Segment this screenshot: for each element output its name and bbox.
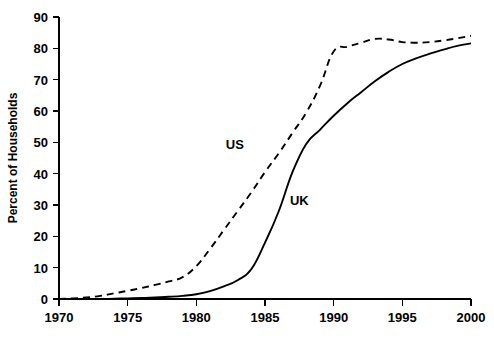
y-tick-label: 70 — [34, 73, 48, 88]
y-tick-label: 10 — [34, 261, 48, 276]
x-tick-label: 2000 — [457, 310, 486, 325]
y-axis-title: Percent of Households — [6, 92, 20, 223]
x-tick-label: 1970 — [45, 310, 74, 325]
y-tick-label: 20 — [34, 229, 48, 244]
y-tick-label: 80 — [34, 41, 48, 56]
y-tick-label: 60 — [34, 104, 48, 119]
y-tick-label: 40 — [34, 167, 48, 182]
y-tick-label: 90 — [34, 10, 48, 25]
x-tick-label: 1985 — [251, 310, 280, 325]
series-label-us: US — [226, 137, 244, 152]
x-tick-label: 1975 — [113, 310, 142, 325]
chart-background — [0, 0, 494, 339]
chart-container: 0102030405060708090 19701975198019851990… — [0, 0, 494, 339]
x-tick-label: 1995 — [388, 310, 417, 325]
x-tick-label: 1980 — [182, 310, 211, 325]
y-tick-label: 0 — [41, 292, 48, 307]
series-label-uk: UK — [290, 193, 309, 208]
line-chart: 0102030405060708090 19701975198019851990… — [0, 0, 494, 339]
y-tick-label: 30 — [34, 198, 48, 213]
y-tick-label: 50 — [34, 135, 48, 150]
x-tick-label: 1990 — [319, 310, 348, 325]
